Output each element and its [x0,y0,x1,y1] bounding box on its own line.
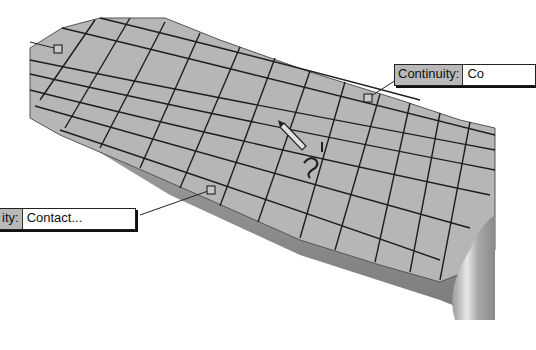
continuity-callout-top-right[interactable]: Continuity: Co [394,64,536,86]
handle-left-middle[interactable] [207,186,215,194]
handle-top-right[interactable] [364,94,372,102]
continuity-callout-left[interactable]: ity: Contact... [0,208,136,230]
handle-top-left[interactable] [54,45,62,53]
continuity-value[interactable]: Co [463,65,488,85]
continuity-label: ity: [0,209,23,229]
continuity-value[interactable]: Contact... [23,209,87,229]
continuity-label: Continuity: [395,65,463,85]
surface-patch[interactable] [30,18,495,282]
